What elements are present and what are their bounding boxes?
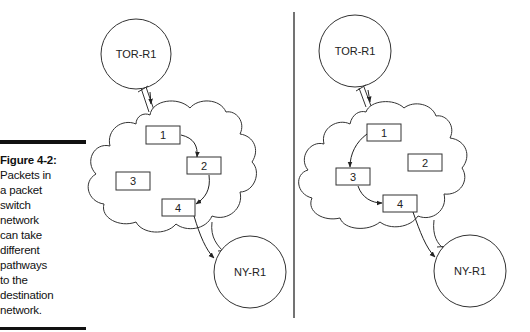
router-ny-r1: NY-R1 [434, 235, 506, 307]
left-panel: TOR-R1 1 2 3 4 [88, 19, 286, 308]
link-tor-cloud [356, 85, 371, 107]
svg-text:3: 3 [350, 171, 356, 183]
router-tor-r1: TOR-R1 [319, 15, 391, 87]
svg-text:1: 1 [381, 127, 387, 139]
router-label: TOR-R1 [116, 48, 157, 60]
packet-box-2: 2 [408, 154, 442, 171]
link-tor-cloud [138, 86, 154, 112]
packet-box-2: 2 [187, 157, 221, 174]
right-panel: TOR-R1 1 2 3 4 [299, 15, 506, 307]
svg-text:3: 3 [130, 175, 136, 187]
packet-box-4: 4 [162, 199, 195, 216]
router-label: NY-R1 [234, 266, 266, 278]
packet-box-1: 1 [367, 124, 401, 141]
packet-box-4: 4 [383, 195, 417, 212]
svg-text:1: 1 [160, 129, 166, 141]
svg-text:4: 4 [397, 198, 403, 210]
network-diagram: TOR-R1 1 2 3 4 [0, 0, 530, 332]
packet-box-3: 3 [336, 168, 370, 185]
packet-box-1: 1 [146, 126, 180, 144]
router-label: TOR-R1 [335, 45, 376, 57]
packet-box-3: 3 [116, 172, 150, 190]
router-tor-r1: TOR-R1 [101, 19, 171, 89]
svg-text:4: 4 [175, 202, 181, 214]
svg-text:2: 2 [422, 157, 428, 169]
router-ny-r1: NY-R1 [214, 236, 286, 308]
svg-text:2: 2 [201, 160, 207, 172]
router-label: NY-R1 [454, 265, 486, 277]
